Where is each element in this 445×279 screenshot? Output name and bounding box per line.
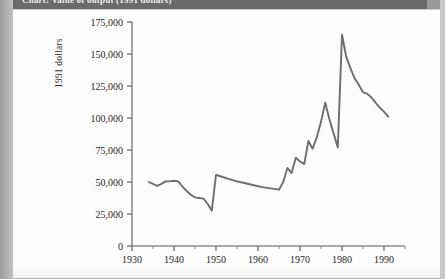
plot-area: 025,00050,00075,000100,000125,000150,000… [13, 10, 440, 278]
y-tick-label: 150,000 [91, 49, 124, 60]
y-tick-label: 125,000 [91, 81, 124, 92]
page-gutter-right [440, 0, 445, 279]
figure-sheet: 1991 dollars 025,00050,00075,000100,0001… [13, 9, 440, 278]
data-series-line [149, 35, 388, 211]
caption-strip: Chart: Value of output (1991 dollars) [0, 0, 445, 9]
page-gutter-left [0, 0, 13, 279]
figure-page: Chart: Value of output (1991 dollars) 19… [0, 0, 445, 279]
line-chart: 1991 dollars 025,00050,00075,000100,0001… [13, 10, 440, 278]
x-axis-ticks: 1930194019501960197019801990 [122, 246, 405, 265]
y-tick-label: 25,000 [96, 209, 124, 220]
sheet-bottom-fade [13, 264, 440, 278]
y-axis-title: 1991 dollars [54, 0, 64, 88]
y-tick-label: 75,000 [96, 145, 124, 156]
y-axis-ticks: 025,00050,00075,000100,000125,000150,000… [91, 17, 133, 252]
axis-lines [132, 22, 405, 246]
y-tick-label: 100,000 [91, 113, 124, 124]
caption-text: Chart: Value of output (1991 dollars) [22, 0, 172, 5]
y-tick-label: 0 [118, 241, 123, 252]
y-tick-label: 175,000 [91, 17, 124, 28]
y-tick-label: 50,000 [96, 177, 124, 188]
